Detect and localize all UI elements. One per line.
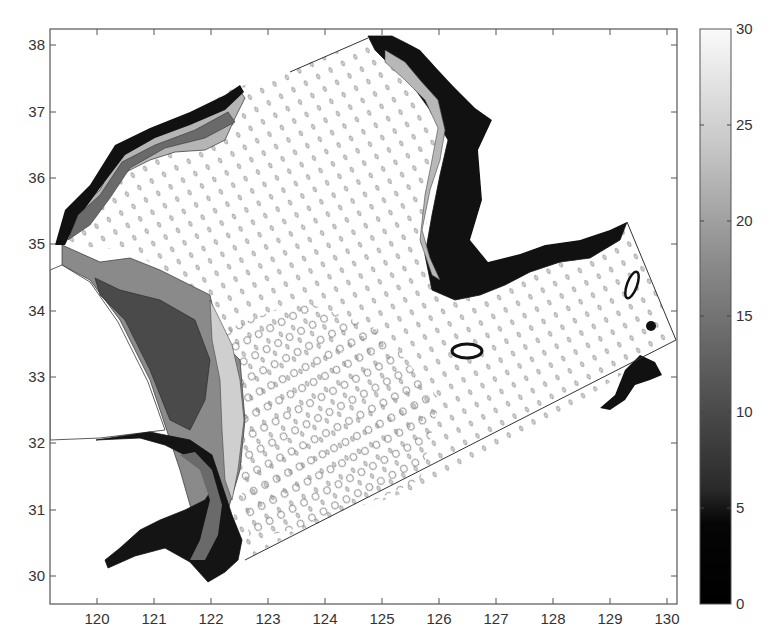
colorbar-tick-label: 10 (736, 403, 753, 420)
colorbar-gradient (700, 29, 731, 604)
x-tick-label: 121 (141, 610, 166, 627)
y-tick-label: 32 (28, 434, 45, 451)
x-tick-label: 126 (426, 610, 451, 627)
island-small (646, 321, 656, 331)
chart-figure: 120 121 122 123 124 125 126 127 128 129 … (0, 0, 772, 643)
y-tick-label: 36 (28, 169, 45, 186)
x-tick-label: 127 (483, 610, 508, 627)
x-tick-label: 120 (84, 610, 109, 627)
jeju-island (452, 344, 482, 358)
x-tick-labels: 120 121 122 123 124 125 126 127 128 129 … (84, 610, 679, 627)
x-tick-label: 130 (654, 610, 679, 627)
y-tick-label: 35 (28, 235, 45, 252)
x-tick-label: 128 (540, 610, 565, 627)
x-tick-label: 129 (597, 610, 622, 627)
colorbar-tick-label: 25 (736, 116, 753, 133)
y-tick-label: 33 (28, 368, 45, 385)
x-tick-label: 122 (198, 610, 223, 627)
colorbar: 0 5 10 15 20 25 30 (700, 20, 753, 612)
map-plot-area (50, 29, 677, 582)
y-tick-label: 37 (28, 103, 45, 120)
y-tick-labels: 30 31 32 33 34 35 36 37 38 (28, 36, 45, 584)
x-tick-label: 124 (312, 610, 337, 627)
colorbar-tick-label: 0 (736, 595, 744, 612)
y-tick-label: 38 (28, 36, 45, 53)
y-tick-label: 30 (28, 567, 45, 584)
y-tick-label: 31 (28, 501, 45, 518)
colorbar-tick-label: 30 (736, 20, 753, 37)
colorbar-tick-label: 20 (736, 212, 753, 229)
colorbar-tick-label: 5 (736, 499, 744, 516)
colorbar-tick-label: 15 (736, 307, 753, 324)
y-tick-label: 34 (28, 302, 45, 319)
x-tick-label: 125 (369, 610, 394, 627)
x-tick-label: 123 (255, 610, 280, 627)
